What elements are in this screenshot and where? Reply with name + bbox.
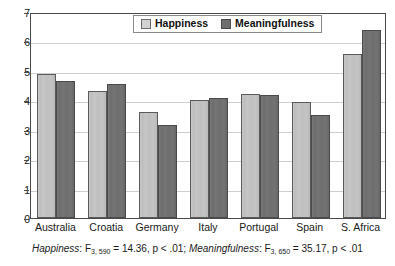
x-tick-label: Portugal (233, 221, 284, 233)
caption-stat1-f: : F (79, 243, 91, 254)
bars-layer (31, 14, 385, 218)
legend-label-meaningfulness: Meaningfulness (235, 18, 314, 29)
x-tick-label: Germany (132, 221, 183, 233)
caption-stat1-value: = 14.36, p < .01; (110, 243, 188, 254)
y-tick-mark (24, 72, 29, 73)
bar-group (336, 14, 387, 218)
caption-stat2-value: = 35.17, p < .01 (290, 243, 363, 254)
bar-meaningfulness-portugal (260, 95, 279, 218)
x-axis-labels: AustraliaCroatiaGermanyItalyPortugalSpai… (30, 221, 386, 237)
caption-stat1-df: 3, 590 (91, 248, 110, 255)
x-tick-label: Italy (183, 221, 234, 233)
light-gray-swatch-icon (141, 19, 151, 29)
bar-group (234, 14, 285, 218)
bar-group (285, 14, 336, 218)
x-tick-label: S. Africa (335, 221, 386, 233)
bar-group (133, 14, 184, 218)
x-tick-label: Australia (30, 221, 81, 233)
caption-stat2-df: 3, 650 (271, 248, 290, 255)
y-axis: 01234567 (0, 13, 30, 219)
bar-happiness-spain (292, 102, 311, 218)
caption-stat2-f: : F (259, 243, 271, 254)
bar-group (82, 14, 133, 218)
caption-stat2-label: Meaningfulness (189, 243, 259, 254)
bar-happiness-s-africa (343, 54, 362, 219)
bar-group (184, 14, 235, 218)
plot-area (30, 13, 386, 219)
bar-happiness-portugal (241, 94, 260, 218)
bar-group (31, 14, 82, 218)
y-tick-mark (24, 219, 29, 220)
bar-happiness-germany (139, 112, 158, 218)
bar-meaningfulness-germany (158, 125, 177, 218)
y-tick-mark (24, 160, 29, 161)
x-tick-label: Croatia (81, 221, 132, 233)
y-tick-mark (24, 42, 29, 43)
bar-happiness-italy (190, 100, 209, 218)
chart-legend: Happiness Meaningfulness (133, 15, 322, 33)
y-tick-mark (24, 131, 29, 132)
bar-happiness-australia (37, 74, 56, 218)
dark-gray-swatch-icon (221, 19, 231, 29)
y-tick-mark (24, 190, 29, 191)
legend-item-happiness: Happiness (141, 18, 208, 29)
legend-item-meaningfulness: Meaningfulness (221, 18, 314, 29)
caption-stat1-label: Happiness (32, 243, 79, 254)
y-tick-mark (24, 101, 29, 102)
bar-meaningfulness-croatia (107, 84, 126, 218)
bar-happiness-croatia (88, 91, 107, 218)
bar-meaningfulness-italy (209, 98, 228, 218)
legend-label-happiness: Happiness (155, 18, 208, 29)
bar-meaningfulness-s-africa (362, 30, 381, 218)
bar-chart-figure: 01234567 Happiness Meaningfulness Austra… (0, 0, 395, 266)
bar-meaningfulness-spain (311, 115, 330, 218)
y-tick-mark (24, 13, 29, 14)
x-tick-label: Spain (284, 221, 335, 233)
bar-meaningfulness-australia (56, 81, 75, 218)
figure-caption: Happiness: F3, 590 = 14.36, p < .01; Mea… (0, 243, 395, 256)
